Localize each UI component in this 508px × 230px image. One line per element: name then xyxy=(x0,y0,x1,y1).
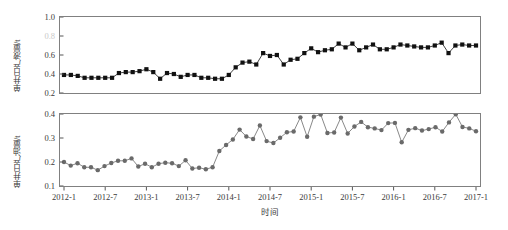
data-point xyxy=(224,143,228,147)
data-point xyxy=(386,121,390,125)
data-point xyxy=(366,125,370,129)
data-point xyxy=(474,43,478,47)
data-point xyxy=(247,60,251,64)
data-point xyxy=(197,166,201,170)
y-axis-tickmarks xyxy=(60,17,66,93)
data-point xyxy=(440,41,444,45)
data-point xyxy=(244,134,248,138)
data-point xyxy=(316,50,320,54)
data-point xyxy=(165,71,169,75)
data-point xyxy=(231,137,235,141)
data-point xyxy=(298,115,302,119)
data-point xyxy=(163,161,167,165)
data-point xyxy=(264,139,268,143)
data-point xyxy=(83,76,87,80)
data-point xyxy=(330,47,334,51)
data-point xyxy=(117,71,121,75)
bottom-chart-plot-area xyxy=(59,113,481,187)
data-point xyxy=(350,42,354,46)
data-point xyxy=(474,129,478,133)
data-point xyxy=(109,161,113,165)
y-axis-tickmarks xyxy=(60,114,66,186)
data-point xyxy=(440,129,444,133)
data-point xyxy=(379,128,383,132)
data-point xyxy=(372,126,376,130)
data-point xyxy=(309,46,313,50)
data-point xyxy=(357,48,361,52)
data-point xyxy=(447,120,451,124)
data-point xyxy=(102,164,106,168)
data-point xyxy=(291,129,295,133)
data-point xyxy=(170,161,174,165)
data-point xyxy=(420,128,424,132)
data-point xyxy=(406,128,410,132)
data-point xyxy=(158,77,162,81)
data-point xyxy=(204,167,208,171)
data-point xyxy=(116,159,120,163)
x-axis-tick-label: 2013-1 xyxy=(124,193,168,202)
data-point xyxy=(89,165,93,169)
data-point xyxy=(433,43,437,47)
data-point xyxy=(398,42,402,46)
x-axis-tick-label: 2015-1 xyxy=(289,193,333,202)
data-point xyxy=(261,51,265,55)
data-point xyxy=(179,75,183,79)
data-point xyxy=(467,43,471,47)
data-point xyxy=(433,125,437,129)
data-point xyxy=(144,67,148,71)
figure-container: 单井日产液量/t 1.0 0.8 0.6 0.4 0.2 单井日产油量/t 0.… xyxy=(0,0,508,230)
data-point xyxy=(385,47,389,51)
data-point xyxy=(352,124,356,128)
data-point xyxy=(150,165,154,169)
x-axis-tick-label: 2014-7 xyxy=(248,193,292,202)
data-point xyxy=(217,149,221,153)
data-point xyxy=(190,166,194,170)
data-point xyxy=(332,130,336,134)
data-point xyxy=(220,77,224,81)
data-point xyxy=(285,130,289,134)
data-point xyxy=(337,42,341,46)
data-point xyxy=(295,57,299,61)
x-axis-tick-label: 2017-1 xyxy=(454,193,498,202)
data-point xyxy=(305,135,309,139)
data-point xyxy=(400,140,404,144)
bottom-chart-svg xyxy=(60,114,480,186)
data-point xyxy=(460,125,464,129)
data-point xyxy=(143,161,147,165)
data-point xyxy=(131,70,135,74)
data-point xyxy=(419,45,423,49)
data-point xyxy=(345,131,349,135)
data-point xyxy=(427,127,431,131)
data-point xyxy=(192,73,196,77)
data-point xyxy=(151,70,155,74)
x-axis-tick-label: 2016-7 xyxy=(413,193,457,202)
data-point xyxy=(96,76,100,80)
data-point xyxy=(275,53,279,57)
data-point xyxy=(413,126,417,130)
x-axis-tick-label: 2012-1 xyxy=(42,193,86,202)
data-point xyxy=(378,47,382,51)
data-point xyxy=(446,51,450,55)
data-point xyxy=(172,72,176,76)
x-axis-tick-label: 2013-7 xyxy=(166,193,210,202)
data-point xyxy=(412,44,416,48)
data-point xyxy=(302,51,306,55)
data-point xyxy=(282,62,286,66)
data-point xyxy=(453,43,457,47)
data-point xyxy=(460,42,464,46)
top-chart-ytick-1.0: 1.0 xyxy=(33,13,55,22)
data-point xyxy=(123,159,127,163)
data-point xyxy=(186,73,190,77)
data-point xyxy=(206,76,210,80)
x-axis-tick-label: 2016-1 xyxy=(372,193,416,202)
data-point xyxy=(75,161,79,165)
data-point xyxy=(177,164,181,168)
data-point xyxy=(124,70,128,74)
data-point xyxy=(103,76,107,80)
bottom-chart-ytick-0.4: 0.4 xyxy=(33,110,55,119)
top-chart-svg xyxy=(60,17,480,93)
data-point xyxy=(210,165,214,169)
x-axis-tick-label: 2015-7 xyxy=(330,193,374,202)
data-point xyxy=(393,121,397,125)
data-point xyxy=(227,73,231,77)
